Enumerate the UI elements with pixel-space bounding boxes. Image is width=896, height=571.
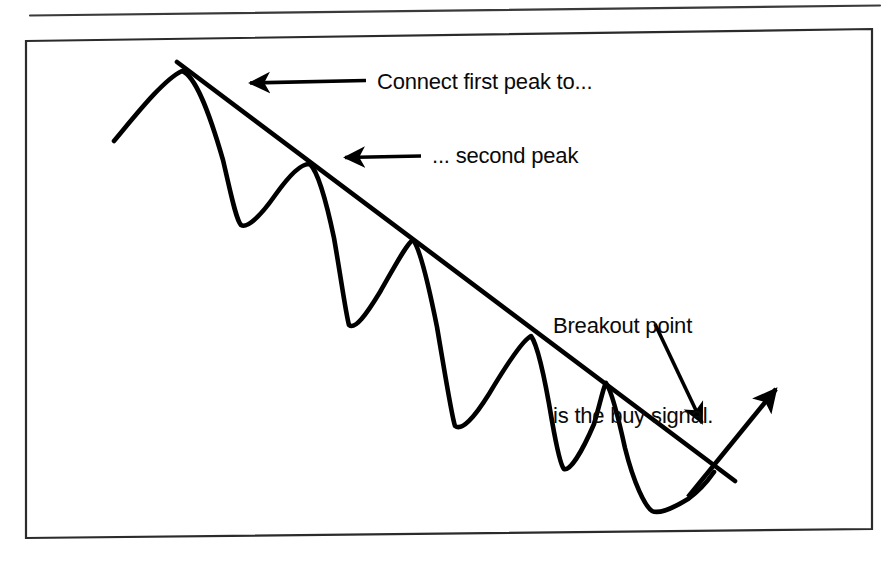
figure-root: Downtrend line with breakout buy signal: [0, 0, 896, 571]
annotation-breakout-line2: is the buy signal.: [553, 401, 713, 431]
annotation-breakout-line1: Breakout point: [553, 311, 713, 341]
annotation-connect-first-peak: Connect first peak to...: [377, 68, 592, 95]
second-peak-leader-arrow: [345, 156, 421, 158]
annotation-breakout: Breakout point is the buy signal.: [553, 251, 713, 491]
first-peak-leader-arrow: [250, 81, 366, 84]
chart-frame: [26, 29, 872, 538]
top-horizontal-rule: [30, 6, 880, 16]
annotation-second-peak: ... second peak: [432, 142, 578, 169]
